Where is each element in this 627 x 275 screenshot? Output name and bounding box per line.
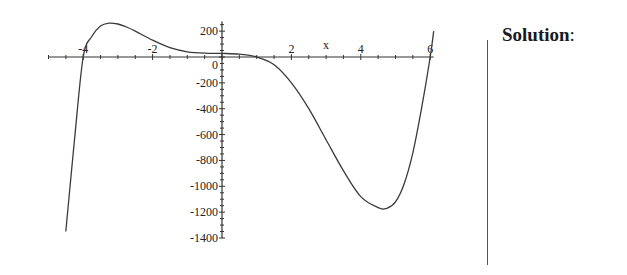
y-tick-label: -400 [196,102,218,116]
vertical-divider [487,40,488,265]
y-tick-label: 0 [212,58,218,72]
y-tick-label: -1200 [190,205,218,219]
y-tick-label: -600 [196,128,218,142]
x-tick-label: 4 [358,42,364,56]
y-tick-label: -1400 [190,231,218,245]
x-axis-label: x [323,38,329,52]
x-tick-label: -2 [148,42,158,56]
y-tick-label: -800 [196,153,218,167]
function-plot: -4-22462000-200-400-600-800-1000-1200-14… [0,0,470,275]
x-tick-label: 2 [288,42,294,56]
function-curve [66,23,434,231]
y-tick-label: -200 [196,76,218,90]
solution-heading: Solution: [502,24,575,46]
solution-colon: : [570,24,575,45]
y-tick-label: -1000 [190,179,218,193]
solution-label: Solution [502,24,570,45]
y-tick-label: 200 [200,24,218,38]
